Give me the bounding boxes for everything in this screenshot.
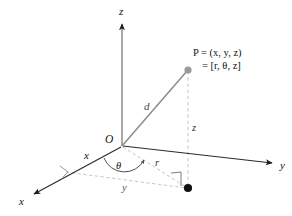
axis-x-label: x <box>19 196 24 207</box>
z-segment-label: z <box>192 123 196 134</box>
r-segment-label: r <box>155 158 159 169</box>
segment-d <box>122 71 187 146</box>
x-segment-label: x <box>84 150 89 161</box>
theta-label: θ <box>116 161 121 172</box>
point-p-marker <box>184 66 191 73</box>
d-label: d <box>144 101 150 112</box>
angle-theta-arc <box>104 158 144 172</box>
axis-y <box>123 146 272 163</box>
construction-lines <box>60 72 188 188</box>
axis-y-label: y <box>280 160 285 171</box>
axis-x <box>34 147 121 194</box>
axis-z-label: z <box>119 6 123 17</box>
cylindrical-coordinates-figure: z y x O x θ d z r y P = (x, y, z) = [r, … <box>0 0 292 216</box>
point-p-label-line1: P = (x, y, z) <box>193 48 242 59</box>
point-p-label: P = (x, y, z) = [r, θ, z] <box>193 48 242 71</box>
origin-label: O <box>105 134 113 146</box>
point-p-label-line2: = [r, θ, z] <box>202 61 242 72</box>
y-segment-label: y <box>122 183 127 194</box>
point-q-marker <box>184 184 192 192</box>
right-angle-mark-x-foot <box>60 166 68 177</box>
right-angle-mark-q <box>171 172 181 186</box>
